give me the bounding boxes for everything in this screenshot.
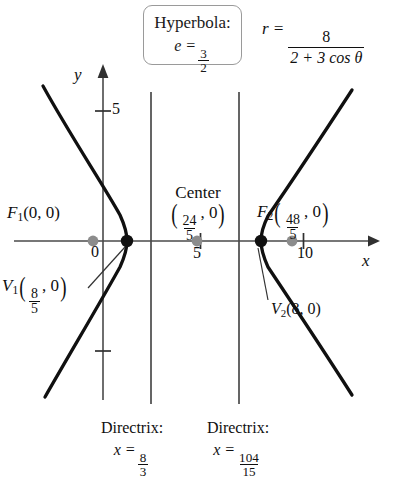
vertex1-numerator: 8 <box>29 287 40 301</box>
directrix-2-denominator: 15 <box>240 464 257 478</box>
center-label: Center (245, 0) <box>156 184 240 243</box>
center-paren-close: ) <box>219 204 225 225</box>
vertex2-name: V <box>271 300 281 317</box>
focus2-fraction: 485 <box>284 213 302 242</box>
equation-denominator: 2 + 3 cos θ <box>288 47 364 67</box>
eccentricity-fraction: 32 <box>198 47 209 74</box>
focus2-coords-tail: , 0 <box>304 202 321 221</box>
callout-title: Hyperbola: <box>144 13 241 33</box>
polar-equation: r =82 + 3 cos θ <box>262 20 364 66</box>
focus2-denominator: 5 <box>287 227 298 242</box>
equation-numerator: 8 <box>322 28 330 47</box>
center-denominator: 5 <box>184 228 195 243</box>
directrix-1-numerator: 8 <box>138 451 149 464</box>
x-tick-label-5: 5 <box>193 245 201 261</box>
directrix-label-2: Directrix: x =10415 <box>186 420 290 478</box>
y-tick-label-5: 5 <box>112 101 120 117</box>
center-coords: (245, 0) <box>156 204 240 243</box>
center-title: Center <box>175 183 220 202</box>
directrix-1-lhs: x = <box>114 441 136 458</box>
y-axis-label: y <box>74 66 82 83</box>
directrix-2-title: Directrix: <box>207 419 269 436</box>
x-tick-label-0: 0 <box>91 244 99 260</box>
y-axis-arrow <box>98 64 109 78</box>
focus2-paren-open: ( <box>274 203 280 224</box>
directrix-1-denominator: 3 <box>138 464 149 478</box>
vertex2-coords: (8, 0) <box>286 300 321 317</box>
callout-eccentricity: e =32 <box>144 37 241 74</box>
vertex1-subscript: 1 <box>12 284 18 297</box>
x-axis-label: x <box>362 252 370 269</box>
focus2-name: F <box>257 202 267 221</box>
x-tick-label-10: 10 <box>297 245 313 261</box>
vertex1-fraction: 85 <box>29 287 40 316</box>
x-axis-arrow <box>368 236 380 247</box>
eccentricity-denominator: 2 <box>198 60 209 74</box>
vertex1-label: V1(85, 0) <box>2 277 68 316</box>
focus2-numerator: 48 <box>284 213 302 227</box>
eccentricity-numerator: 3 <box>198 47 209 60</box>
equation-lhs: r = <box>262 19 284 38</box>
hyperbola-right-branch <box>261 90 352 395</box>
vertex1-name: V <box>2 276 12 295</box>
hyperbola-callout-box: Hyperbola: e =32 <box>143 5 242 65</box>
vertex1-coords-tail: , 0 <box>42 276 59 295</box>
eccentricity-label: e = <box>174 37 196 54</box>
focus1-coords: (0, 0) <box>23 203 60 222</box>
vertex1-paren-open: ( <box>19 277 25 298</box>
focus2-paren-close: ) <box>322 203 328 224</box>
vertex1-marker <box>121 235 133 247</box>
focus2-label: F2(485, 0) <box>257 203 330 242</box>
directrix-1-title: Directrix: <box>101 419 163 436</box>
center-coords-tail: , 0 <box>200 203 217 222</box>
focus1-label: F1(0, 0) <box>7 204 60 224</box>
center-paren-open: ( <box>171 204 177 225</box>
directrix-label-1: Directrix: x =83 <box>84 420 180 478</box>
directrix-2-numerator: 104 <box>237 451 261 464</box>
center-fraction: 245 <box>181 214 199 243</box>
directrix-1-equation: x =83 <box>84 442 180 478</box>
vertex1-denominator: 5 <box>29 301 40 316</box>
center-numerator: 24 <box>181 214 199 228</box>
vertex2-label: V2(8, 0) <box>271 301 321 319</box>
equation-fraction: 82 + 3 cos θ <box>288 28 364 67</box>
directrix-1-fraction: 83 <box>138 451 149 478</box>
vertex1-paren-close: ) <box>60 277 66 298</box>
focus2-subscript: 2 <box>267 210 273 223</box>
directrix-2-equation: x =10415 <box>186 442 290 478</box>
directrix-2-fraction: 10415 <box>237 451 261 478</box>
focus1-name: F <box>7 203 17 222</box>
directrix-2-lhs: x = <box>213 441 235 458</box>
